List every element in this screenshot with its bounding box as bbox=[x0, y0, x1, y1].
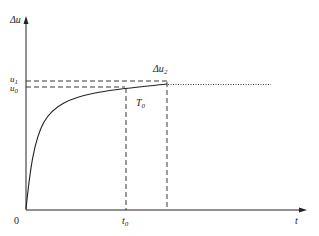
origin-label: 0 bbox=[14, 216, 19, 226]
y-axis-arrow-icon bbox=[24, 16, 29, 24]
diagram-canvas bbox=[0, 0, 319, 236]
response-curve bbox=[26, 84, 167, 209]
x-axis-label: t bbox=[295, 216, 298, 226]
T0-label: T0 bbox=[136, 98, 145, 110]
delta-u2-label: Δu2 bbox=[153, 64, 167, 76]
u0-label: u0 bbox=[10, 84, 18, 95]
x-axis-arrow-icon bbox=[299, 208, 307, 213]
y-axis-label: Δu bbox=[10, 15, 21, 25]
t0-label: t0 bbox=[122, 216, 128, 228]
